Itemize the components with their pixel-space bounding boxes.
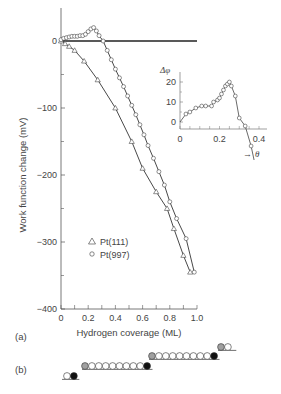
figure: 0−100−200−300−400 00.20.40.60.81.0 Work … — [0, 0, 281, 394]
circle-marker-icon — [233, 94, 237, 98]
circle-marker-icon — [227, 80, 231, 84]
circle-marker-icon — [90, 252, 94, 256]
open-atom — [130, 363, 137, 370]
x-tick-label: 0 — [58, 313, 63, 323]
circle-marker-icon — [210, 104, 214, 108]
open-atom — [169, 353, 176, 360]
panel-label-a: (a) — [15, 331, 27, 342]
y-axis-title: Work function change (mV) — [17, 118, 28, 233]
grey-atom — [149, 353, 156, 360]
circle-marker-icon — [168, 200, 172, 204]
x-ticks: 00.20.40.60.81.0 — [58, 305, 203, 323]
inset-y-tick-label: 0 — [171, 117, 176, 127]
legend-label-pt111: Pt(111) — [100, 237, 128, 247]
series-line — [61, 28, 194, 273]
open-atom — [123, 363, 130, 370]
circle-marker-icon — [222, 88, 226, 92]
x-axis-title: Hydrogen coverage (ML) — [76, 327, 181, 338]
inset-plot: 01020 00.20.4 Δφ → θ — [159, 65, 267, 160]
open-atom — [64, 373, 71, 380]
triangle-marker-icon — [129, 139, 134, 144]
circle-marker-icon — [200, 104, 204, 108]
black-atom — [144, 363, 151, 370]
circle-marker-icon — [192, 270, 196, 274]
circle-marker-icon — [126, 94, 130, 98]
stepped-surface-schematic — [62, 344, 236, 380]
circle-marker-icon — [229, 84, 233, 88]
triangle-marker-icon — [89, 238, 96, 244]
x-tick-label: 1.0 — [191, 313, 204, 323]
triangle-marker-icon — [140, 166, 145, 171]
inset-x-tick-label: 0.2 — [213, 134, 226, 144]
triangle-marker-icon — [164, 206, 169, 211]
circle-marker-icon — [151, 156, 155, 160]
inset-series — [180, 80, 254, 160]
circle-marker-icon — [94, 29, 98, 33]
circle-marker-icon — [188, 110, 192, 114]
inset-x-arrow: → — [243, 149, 252, 159]
circle-marker-icon — [237, 116, 241, 120]
triangle-marker-icon — [113, 105, 118, 110]
circle-marker-icon — [134, 113, 138, 117]
y-tick-label: −300 — [37, 237, 57, 247]
inset-y-axis-title: Δφ — [159, 65, 170, 75]
circle-marker-icon — [184, 237, 188, 241]
open-atom — [89, 363, 96, 370]
x-tick-label: 0.8 — [164, 313, 177, 323]
circle-marker-icon — [122, 85, 126, 89]
inset-x-tick-label: 0 — [177, 134, 182, 144]
x-tick-label: 0.4 — [109, 313, 122, 323]
grey-atom — [218, 344, 225, 351]
legend: Pt(111) Pt(997) — [89, 237, 130, 260]
circle-marker-icon — [218, 96, 222, 100]
black-atom — [211, 353, 218, 360]
open-atom — [176, 353, 183, 360]
circle-marker-icon — [243, 124, 247, 128]
circle-marker-icon — [146, 144, 150, 148]
grey-atom — [82, 363, 89, 370]
circle-marker-icon — [138, 123, 142, 127]
panel-label-b: (b) — [15, 364, 27, 375]
open-atom — [109, 363, 116, 370]
x-tick-label: 0.6 — [136, 313, 149, 323]
open-atom — [204, 353, 211, 360]
y-tick-label: −200 — [37, 170, 57, 180]
triangle-marker-icon — [171, 226, 176, 231]
triangle-marker-icon — [181, 253, 186, 258]
circle-marker-icon — [249, 144, 253, 148]
circle-marker-icon — [175, 217, 179, 221]
legend-label-pt997: Pt(997) — [100, 250, 130, 260]
circle-marker-icon — [212, 100, 216, 104]
open-atom — [190, 353, 197, 360]
y-tick-label: 0 — [52, 36, 57, 46]
open-atom — [197, 353, 204, 360]
circle-marker-icon — [97, 34, 101, 38]
triangle-marker-icon — [72, 48, 77, 53]
inset-x-axis-title: θ — [255, 149, 260, 159]
inset-y-tick-label: 10 — [166, 97, 176, 107]
open-atom — [162, 353, 169, 360]
triangle-marker-icon — [154, 189, 159, 194]
circle-marker-icon — [157, 170, 161, 174]
y-tick-label: −100 — [37, 103, 57, 113]
main-plot: 0−100−200−300−400 00.20.40.60.81.0 Work … — [17, 8, 203, 338]
circle-marker-icon — [109, 58, 113, 62]
open-atom — [156, 353, 163, 360]
open-atom — [95, 363, 102, 370]
circle-marker-icon — [142, 133, 146, 137]
circle-marker-icon — [194, 106, 198, 110]
inset-y-tick-label: 20 — [166, 77, 176, 87]
circle-marker-icon — [113, 67, 117, 71]
open-atom — [102, 363, 109, 370]
circle-marker-icon — [130, 103, 134, 107]
circle-marker-icon — [117, 76, 121, 80]
circle-marker-icon — [220, 92, 224, 96]
open-atom — [225, 344, 232, 351]
open-atom — [116, 363, 123, 370]
inset-x-tick-label: 0.4 — [253, 134, 266, 144]
circle-marker-icon — [204, 104, 208, 108]
black-atom — [71, 373, 78, 380]
circle-marker-icon — [105, 48, 109, 52]
open-atom — [183, 353, 190, 360]
circle-marker-icon — [184, 112, 188, 116]
